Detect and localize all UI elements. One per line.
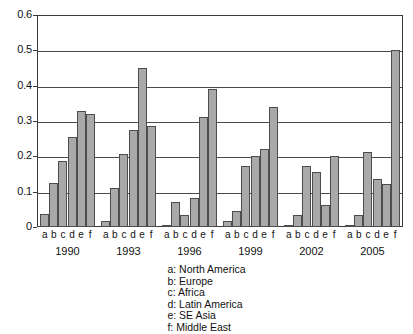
y-axis-tick-label: 0.3 [0,115,32,126]
bar-2002-c [302,166,311,227]
bar-1990-e [77,111,86,227]
y-axis-tick-label: 0.6 [0,9,32,20]
bar-2002-b [293,215,302,227]
bar-2002-f [330,156,339,227]
bar-1993-c [119,154,128,227]
bar-2005-e [382,184,391,227]
bar-1999-f [269,107,278,227]
bar-1999-c [241,166,250,227]
bar-1993-d [129,130,138,227]
subcategory-label-1996-f: f [206,229,218,241]
bar-1999-e [260,149,269,227]
bar-1999-b [232,211,241,227]
bar-1999-d [251,156,260,227]
y-axis-tick-label: 0.2 [0,150,32,161]
category-label-1993: 1993 [98,245,159,258]
bar-1996-c [180,215,189,227]
category-label-2005: 2005 [342,245,403,258]
y-axis-tick-label: 0.5 [0,44,32,55]
legend: a: North Americab: Europec: Africad: Lat… [0,264,413,334]
subcategory-label-1990-f: f [84,229,96,241]
bar-1993-a [101,221,110,227]
bar-1993-e [138,68,147,227]
bar-1996-f [208,89,217,228]
bar-1996-e [199,117,208,227]
bar-2005-b [354,215,363,227]
legend-entry-a: a: North America [167,264,245,276]
bar-1999-a [223,221,232,227]
bar-1996-b [171,202,180,227]
category-axis-labels: 199019931996199920022005 [37,245,403,261]
category-label-2002: 2002 [281,245,342,258]
bar-2005-f [391,50,400,227]
y-axis-tick-label: 0 [0,221,32,232]
subcategory-label-2005-f: f [389,229,401,241]
y-axis-tick-label: 0.4 [0,80,32,91]
bar-1990-f [86,114,95,227]
subcategory-label-2002-f: f [328,229,340,241]
category-label-1990: 1990 [37,245,98,258]
bar-2005-a [345,225,354,227]
bar-2005-d [373,179,382,227]
y-axis-tick-mark [33,227,37,228]
category-label-1999: 1999 [220,245,281,258]
y-axis-tick-label: 0.1 [0,186,32,197]
bar-1990-b [49,183,58,227]
bar-1990-a [40,214,49,227]
bar-2002-d [312,172,321,227]
legend-entries: a: North Americab: Europec: Africad: Lat… [167,264,245,334]
bar-chart-figure: 0.60.50.40.30.20.10 abcdefabcdefabcdefab… [0,0,413,334]
category-label-1996: 1996 [159,245,220,258]
bar-2002-e [321,205,330,227]
bar-1993-b [110,188,119,227]
bar-1990-d [68,137,77,227]
bar-2005-c [363,152,372,227]
subcategory-axis-labels: abcdefabcdefabcdefabcdefabcdefabcdef [37,229,403,243]
bar-2002-a [284,225,293,227]
bar-1990-c [58,161,67,227]
subcategory-label-1993-f: f [145,229,157,241]
bar-1996-d [190,198,199,227]
legend-entry-f: f: Middle East [167,322,245,334]
bars-layer [37,15,403,227]
subcategory-label-1999-f: f [267,229,279,241]
bar-1993-f [147,126,156,227]
bar-1996-a [162,225,171,227]
